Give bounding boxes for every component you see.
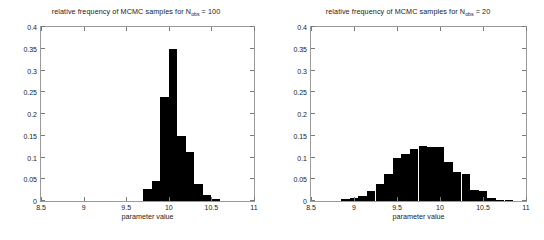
x-axis-tick-label: 10	[165, 201, 173, 211]
y-axis-tick-mark	[522, 48, 526, 49]
x-axis-tick-mark	[483, 197, 484, 201]
x-axis-tick-mark	[84, 27, 85, 31]
y-axis-tick-label: 0.35	[293, 45, 311, 52]
y-axis-tick-label: 0.2	[27, 111, 41, 118]
x-axis-tick-mark	[526, 197, 527, 201]
x-axis-tick-mark	[397, 197, 398, 201]
histogram-bar	[401, 154, 410, 201]
y-axis-tick-mark	[250, 178, 254, 179]
x-axis-tick-mark	[397, 27, 398, 31]
chart-title-right: relative frequency of MCMC samples for N…	[272, 7, 544, 17]
x-axis-tick-mark	[84, 197, 85, 201]
histogram-bar	[444, 162, 453, 201]
chart-title-left: relative frequency of MCMC samples for N…	[0, 7, 272, 17]
histogram-bar	[376, 184, 385, 201]
y-axis-tick-label: 0.4	[297, 24, 311, 31]
y-axis-tick-mark	[522, 157, 526, 158]
x-axis-tick-label: 11	[522, 201, 529, 211]
y-axis-tick-mark	[250, 135, 254, 136]
chart-title-left-prefix: relative frequency of MCMC samples for N	[52, 7, 191, 16]
x-axis-label-right: parameter value	[311, 212, 526, 221]
histogram-bar	[436, 147, 445, 201]
chart-title-right-prefix: relative frequency of MCMC samples for N	[326, 7, 465, 16]
histogram-bar	[462, 174, 471, 201]
x-axis-tick-mark	[440, 27, 441, 31]
histogram-bar	[152, 181, 161, 201]
y-axis-tick-mark	[522, 91, 526, 92]
x-axis-tick-label: 9	[82, 201, 86, 211]
y-axis-tick-mark	[522, 135, 526, 136]
x-axis-tick-mark	[311, 197, 312, 201]
y-axis-tick-mark	[311, 70, 315, 71]
histogram-bar	[194, 184, 203, 201]
plot-area-left: 00.050.10.150.20.250.30.350.48.599.51010…	[40, 26, 255, 202]
x-axis-tick-mark	[311, 27, 312, 31]
x-axis-tick-label: 9.5	[392, 201, 402, 211]
histogram-bar	[143, 189, 152, 201]
x-axis-tick-label: 9	[352, 201, 356, 211]
y-axis-tick-label: 0.2	[297, 111, 311, 118]
y-axis-tick-mark	[250, 157, 254, 158]
x-axis-tick-mark	[169, 27, 170, 31]
histogram-bar	[358, 196, 367, 201]
panel-nobs-20: relative frequency of MCMC samples for N…	[272, 0, 544, 240]
histogram-bar	[160, 97, 169, 201]
y-axis-tick-mark	[311, 48, 315, 49]
histogram-bar	[427, 147, 436, 201]
histogram-bar	[177, 136, 186, 201]
histogram-bar	[341, 199, 350, 201]
x-axis-tick-mark	[526, 27, 527, 31]
chart-title-right-subscript: obs	[465, 11, 473, 17]
y-axis-tick-mark	[41, 70, 45, 71]
histogram-bar	[505, 200, 514, 201]
y-axis-tick-label: 0.1	[297, 154, 311, 161]
x-axis-tick-mark	[211, 27, 212, 31]
chart-title-right-suffix: = 20	[474, 7, 491, 16]
y-axis-tick-mark	[311, 91, 315, 92]
plot-area-right: 00.050.10.150.20.250.30.350.48.599.51010…	[310, 26, 527, 202]
y-axis-tick-mark	[311, 113, 315, 114]
y-axis-tick-label: 0.05	[293, 176, 311, 183]
y-axis-tick-label: 0.15	[293, 132, 311, 139]
histogram-bar	[393, 158, 402, 202]
x-axis-tick-mark	[440, 197, 441, 201]
chart-title-left-suffix: = 100	[200, 7, 221, 16]
y-axis-tick-label: 0.05	[23, 176, 41, 183]
x-axis-tick-label: 10.5	[476, 201, 490, 211]
chart-title-left-subscript: obs	[191, 11, 199, 17]
histogram-bar	[453, 172, 462, 201]
y-axis-tick-mark	[311, 157, 315, 158]
histogram-bar	[419, 146, 428, 201]
panel-nobs-100: relative frequency of MCMC samples for N…	[0, 0, 272, 240]
x-axis-tick-mark	[254, 27, 255, 31]
x-axis-tick-mark	[169, 197, 170, 201]
figure-container: relative frequency of MCMC samples for N…	[0, 0, 544, 240]
y-axis-tick-mark	[41, 48, 45, 49]
histogram-bar	[169, 49, 178, 201]
x-axis-tick-mark	[41, 197, 42, 201]
y-axis-tick-mark	[522, 178, 526, 179]
y-axis-tick-mark	[311, 178, 315, 179]
y-axis-tick-label: 0.25	[23, 89, 41, 96]
histogram-bar	[470, 190, 479, 201]
x-axis-tick-mark	[254, 197, 255, 201]
histogram-bar	[367, 191, 376, 201]
y-axis-tick-label: 0.3	[297, 67, 311, 74]
y-axis-tick-mark	[41, 157, 45, 158]
x-axis-tick-label: 10.5	[205, 201, 219, 211]
x-axis-tick-mark	[354, 27, 355, 31]
y-axis-tick-label: 0.15	[23, 132, 41, 139]
x-axis-tick-label: 9.5	[121, 201, 131, 211]
y-axis-tick-mark	[41, 91, 45, 92]
y-axis-tick-label: 0.3	[27, 67, 41, 74]
y-axis-tick-mark	[250, 70, 254, 71]
x-axis-tick-label: 11	[250, 201, 257, 211]
y-axis-tick-label: 0.1	[27, 154, 41, 161]
y-axis-tick-mark	[250, 48, 254, 49]
histogram-bars-right	[311, 27, 526, 201]
histogram-bar	[186, 152, 195, 201]
histogram-bar	[410, 149, 419, 201]
x-axis-tick-mark	[126, 27, 127, 31]
y-axis-tick-mark	[522, 113, 526, 114]
y-axis-tick-mark	[41, 113, 45, 114]
